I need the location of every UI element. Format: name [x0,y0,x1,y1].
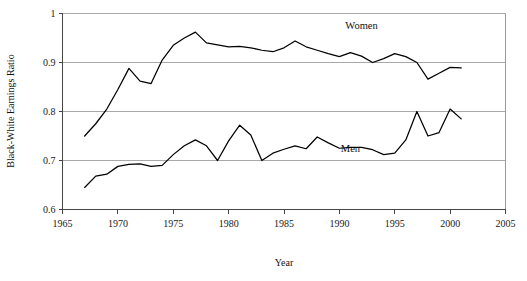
series-label-men: Men [341,143,361,154]
y-tick-label: 0.7 [43,155,56,166]
series-line-men [85,109,462,187]
x-axis-ticks-group: 196519701975198019851990199520002005 [53,210,516,229]
x-tick-label: 1975 [163,218,183,229]
series-line-women [85,32,462,136]
x-tick-label: 2000 [440,218,460,229]
y-tick-label: 0.6 [43,204,56,215]
chart-figure: 0.60.70.80.91 19651970197519801985199019… [0,0,527,281]
x-tick-label: 1990 [329,218,349,229]
earnings-ratio-line-chart: 0.60.70.80.91 19651970197519801985199019… [0,0,527,281]
x-tick-label: 2005 [496,218,516,229]
y-axis-ticks-group: 0.60.70.80.91 [43,8,63,215]
x-tick-label: 1980 [219,218,239,229]
x-tick-label: 1965 [53,218,73,229]
x-tick-label: 1985 [274,218,294,229]
y-tick-label: 0.8 [43,106,56,117]
x-tick-label: 1970 [108,218,128,229]
y-tick-label: 1 [51,8,56,19]
series-labels-group: WomenMen [341,20,379,154]
x-tick-label: 1995 [385,218,405,229]
gridlines-group [63,14,506,161]
series-label-women: Women [345,20,378,31]
y-tick-label: 0.9 [43,57,56,68]
y-axis-title: Black-White Earnings Ratio [5,54,16,167]
x-axis-title: Year [275,257,294,268]
series-group [85,32,462,187]
